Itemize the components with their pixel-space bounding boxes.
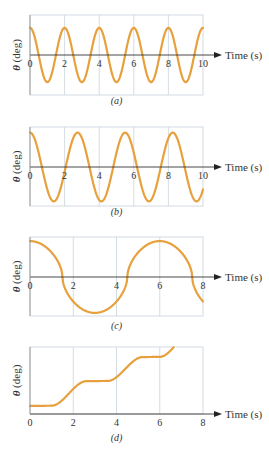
x-axis-label: Time (s): [225, 161, 263, 174]
x-tick-label: 4: [114, 280, 119, 291]
panel-c: 02468Time (s)θ (deg)(c): [10, 237, 263, 332]
x-tick-label: 0: [28, 280, 33, 291]
axis-arrow-icon: [214, 164, 222, 170]
panel-caption: (b): [111, 206, 123, 218]
x-tick-label: 2: [71, 417, 76, 428]
y-axis-label: θ (deg): [10, 260, 23, 292]
panel-caption: (a): [111, 95, 123, 107]
x-tick-label: 0: [28, 417, 33, 428]
panel-b: 0246810Time (s)θ (deg)(b): [10, 127, 263, 218]
x-axis-label: Time (s): [225, 408, 263, 421]
y-axis-label: θ (deg): [10, 39, 23, 71]
x-tick-label: 8: [166, 170, 171, 181]
x-tick-label: 6: [131, 170, 136, 181]
pendulum-angle-figure: 0246810Time (s)θ (deg)(a) 0246810Time (s…: [0, 0, 269, 452]
x-tick-label: 2: [71, 280, 76, 291]
x-tick-label: 4: [97, 170, 102, 181]
panel-a: 0246810Time (s)θ (deg)(a): [10, 15, 263, 107]
y-axis-label: θ (deg): [10, 150, 23, 182]
x-tick-label: 8: [201, 417, 206, 428]
theta-curve: [30, 347, 174, 406]
x-axis-label: Time (s): [225, 49, 263, 62]
x-tick-label: 8: [166, 58, 171, 69]
y-axis-label: θ (deg): [10, 364, 23, 396]
panel-d: 02468Time (s)θ (deg)(d): [10, 347, 263, 444]
axis-arrow-icon: [214, 52, 222, 58]
x-tick-label: 2: [62, 58, 67, 69]
x-tick-label: 0: [28, 58, 33, 69]
panel-caption: (d): [111, 432, 123, 444]
x-tick-label: 4: [114, 417, 119, 428]
x-tick-label: 6: [131, 58, 136, 69]
x-tick-label: 2: [62, 170, 67, 181]
x-tick-label: 10: [198, 170, 208, 181]
panel-caption: (c): [111, 320, 123, 332]
x-tick-label: 10: [198, 58, 208, 69]
x-tick-label: 4: [97, 58, 102, 69]
x-tick-label: 6: [157, 417, 162, 428]
axis-arrow-icon: [214, 411, 222, 417]
x-tick-label: 8: [201, 280, 206, 291]
x-tick-label: 0: [28, 170, 33, 181]
axis-arrow-icon: [214, 274, 222, 280]
x-tick-label: 6: [157, 280, 162, 291]
x-axis-label: Time (s): [225, 271, 263, 284]
